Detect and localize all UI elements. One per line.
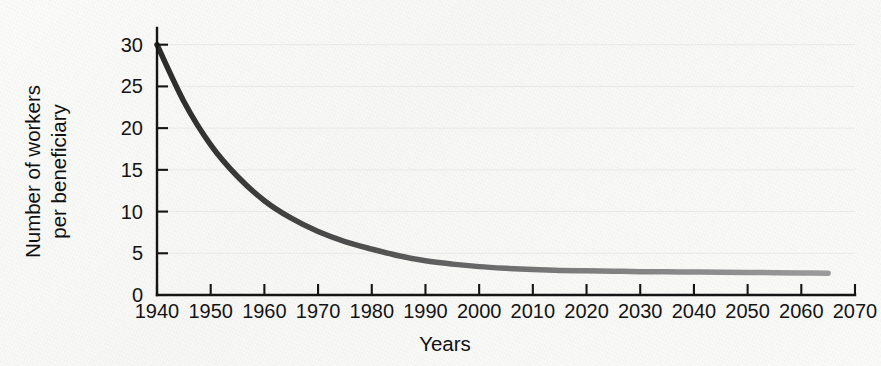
gridlines (157, 45, 855, 254)
x-tick-label: 1970 (296, 300, 341, 322)
x-tick-label: 2030 (618, 300, 663, 322)
y-axis-title-line: Number of workers (21, 85, 44, 258)
y-tick-label: 15 (121, 159, 143, 181)
x-tick-label: 1960 (242, 300, 287, 322)
chart-canvas: 051015202530 194019501960197019801990200… (0, 0, 881, 366)
y-tick-label: 25 (121, 75, 143, 97)
data-series (157, 45, 828, 274)
y-tick-label: 10 (121, 201, 143, 223)
x-tick-label: 2020 (564, 300, 609, 322)
x-tick-label: 1980 (350, 300, 395, 322)
x-tick-label: 2070 (833, 300, 878, 322)
x-tick-label: 1990 (403, 300, 448, 322)
x-tick-label: 1950 (188, 300, 233, 322)
x-tick-label: 2040 (672, 300, 717, 322)
x-axis-title: Years (419, 332, 471, 355)
x-tick-label: 2050 (725, 300, 770, 322)
x-tick-label: 2010 (511, 300, 556, 322)
axis-lines (157, 28, 855, 295)
x-axis-ticks: 1940195019601970198019902000201020202030… (135, 284, 878, 322)
chart-figure: 051015202530 194019501960197019801990200… (0, 0, 881, 366)
y-axis-title-line: per beneficiary (47, 104, 70, 239)
y-tick-label: 5 (132, 242, 143, 264)
y-axis-ticks: 051015202530 (121, 34, 168, 306)
y-tick-label: 20 (121, 117, 143, 139)
x-tick-label: 1940 (135, 300, 180, 322)
series-line (157, 45, 828, 274)
x-tick-label: 2060 (779, 300, 824, 322)
y-axis-title: Number of workersper beneficiary (21, 85, 70, 258)
x-tick-label: 2000 (457, 300, 502, 322)
y-tick-label: 30 (121, 34, 143, 56)
